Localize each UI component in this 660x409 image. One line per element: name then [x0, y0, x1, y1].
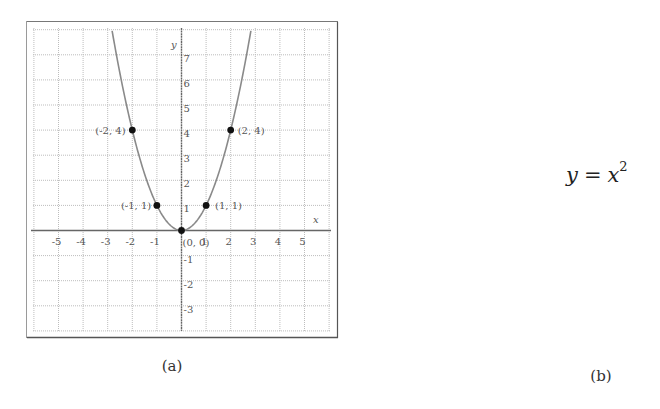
y-axis-label: y	[170, 39, 177, 50]
x-tick-label: 4	[275, 236, 281, 247]
point-label: (1, 1)	[215, 200, 242, 211]
x-tick-label: -3	[101, 236, 111, 247]
x-tick-label: -5	[52, 236, 62, 247]
y-tick-label: -2	[184, 279, 194, 290]
equation-operator: =	[584, 163, 602, 187]
data-point	[203, 202, 210, 209]
x-tick-label: 5	[299, 236, 305, 247]
caption-a: (a)	[162, 357, 183, 375]
y-tick-label: 7	[184, 53, 190, 64]
data-point	[154, 202, 161, 209]
y-tick-label: 3	[184, 153, 190, 164]
y-tick-label: -1	[184, 254, 194, 265]
y-tick-label: 2	[184, 178, 190, 189]
data-point	[178, 227, 185, 234]
y-tick-label: 4	[184, 128, 190, 139]
point-label: (2, 4)	[238, 125, 265, 136]
point-label: (-2, 4)	[95, 125, 125, 136]
caption-b: (b)	[590, 367, 611, 385]
data-point	[129, 127, 136, 134]
parabola-chart: xy -5-4-3-2-112345-3-2-11234567 (-2, 4)(…	[0, 0, 660, 409]
x-tick-label: -4	[76, 236, 86, 247]
equation-exponent: 2	[619, 159, 627, 174]
point-label: (-1, 1)	[121, 200, 151, 211]
y-tick-label: 1	[184, 203, 190, 214]
x-tick-label: -2	[125, 236, 135, 247]
x-tick-label: 3	[250, 236, 256, 247]
point-label: (0, 0)	[183, 237, 210, 248]
y-tick-label: -3	[184, 304, 194, 315]
x-tick-label: -1	[150, 236, 160, 247]
equation-base: x	[607, 163, 619, 187]
data-point	[227, 127, 234, 134]
chart-frame	[27, 22, 339, 339]
y-tick-label: 5	[184, 103, 190, 114]
x-tick-label: 2	[226, 236, 232, 247]
equation-lhs: y	[566, 163, 578, 187]
equation-y-equals-x-squared: y=x2	[566, 162, 628, 187]
x-axis-label: x	[313, 214, 319, 225]
y-tick-label: 6	[184, 78, 190, 89]
